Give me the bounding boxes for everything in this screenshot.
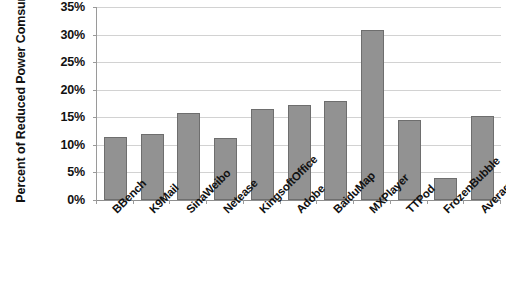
y-axis-tick-label: 10% xyxy=(61,138,85,152)
x-axis-category-label: TTPod xyxy=(404,207,412,215)
x-axis-category-label: Netease xyxy=(221,207,229,215)
x-axis-category-label: BBench xyxy=(110,207,118,215)
y-axis-tick-label: 35% xyxy=(61,0,85,14)
x-axis-category-label: FrozenBubble xyxy=(441,207,449,215)
y-axis-tick-labels: 35%30%25%20%15%10%5%0% xyxy=(44,0,90,205)
bar xyxy=(104,137,127,200)
x-axis: BBenchK9MailSinaWeiboNeteaseKingsoftOffi… xyxy=(96,200,500,284)
y-axis-tick-label: 15% xyxy=(61,110,85,124)
bar xyxy=(141,134,164,200)
y-axis-tick-label: 20% xyxy=(61,83,85,97)
y-axis-tick-label: 0% xyxy=(67,193,85,207)
x-axis-category-label: Adobe xyxy=(294,207,302,215)
bar xyxy=(324,101,347,200)
x-axis-category-label: KingsoftOffice xyxy=(257,207,265,215)
y-axis-title-text: Percent of Reduced Power Comsumption xyxy=(14,3,29,203)
x-axis-category-label: K9Mail xyxy=(147,207,155,215)
y-axis-tick-label: 5% xyxy=(67,165,85,179)
x-axis-category-label: MXPlayer xyxy=(367,207,375,215)
y-axis-title: Percent of Reduced Power Comsumption xyxy=(0,0,44,205)
bar xyxy=(177,113,200,200)
bar-chart: Percent of Reduced Power Comsumption 35%… xyxy=(0,0,506,284)
x-axis-category-label: Average xyxy=(478,207,486,215)
x-axis-tickmark xyxy=(96,200,97,204)
y-axis-tick-label: 30% xyxy=(61,28,85,42)
x-axis-category-label: SinaWeibo xyxy=(184,207,192,215)
x-axis-category-label: BaiduMap xyxy=(331,207,339,215)
y-axis-tick-label: 25% xyxy=(61,55,85,69)
